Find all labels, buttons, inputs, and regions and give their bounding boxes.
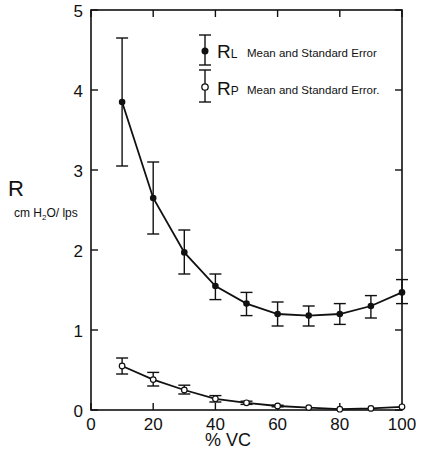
series-l (116, 38, 408, 326)
series-line (122, 366, 402, 409)
open-circle-marker-icon (202, 84, 208, 90)
legend-rp-label: RP (217, 78, 239, 99)
legend-rp: RP Mean and Standard Error. (199, 70, 379, 102)
legend-rl-label: RL (217, 41, 238, 62)
plot-frame (91, 10, 402, 410)
data-point (337, 311, 344, 318)
series-p (116, 358, 405, 412)
y-axis-title: R (8, 176, 24, 201)
data-point (305, 312, 312, 319)
data-point (150, 377, 156, 383)
data-point (212, 283, 219, 290)
data-point (337, 406, 343, 412)
legend-rl: RL Mean and Standard Error (199, 35, 377, 65)
x-tick-label: 0 (86, 415, 95, 434)
legend-rp-text: Mean and Standard Error. (247, 84, 379, 96)
axis-ticks: 012345020406080100 (74, 2, 417, 434)
data-point (368, 303, 375, 310)
y-tick-label: 5 (74, 2, 83, 21)
resistance-chart: 012345020406080100 R cm H2O/ lps % VC RL… (0, 0, 421, 466)
data-point (275, 403, 281, 409)
data-point (399, 289, 406, 296)
data-point (182, 387, 188, 393)
y-axis-units: cm H2O/ lps (14, 206, 78, 222)
data-point (306, 405, 312, 411)
data-point (119, 99, 126, 106)
data-point (399, 404, 405, 410)
x-tick-label: 60 (268, 415, 287, 434)
legend: RL Mean and Standard Error RP Mean and S… (199, 35, 379, 102)
series-line (122, 102, 402, 316)
filled-circle-marker-icon (202, 48, 209, 55)
legend-rl-text: Mean and Standard Error (247, 47, 377, 59)
x-tick-label: 20 (144, 415, 163, 434)
x-tick-label: 80 (330, 415, 349, 434)
data-point (368, 406, 374, 412)
x-tick-label: 100 (388, 415, 416, 434)
data-point (181, 249, 188, 256)
data-point (213, 396, 219, 402)
y-tick-label: 3 (74, 162, 83, 181)
data-point (150, 195, 157, 202)
data-point (119, 363, 125, 369)
data-point (244, 400, 250, 406)
data-point (243, 300, 250, 307)
axes (91, 10, 402, 410)
y-tick-label: 2 (74, 242, 83, 261)
y-tick-label: 1 (74, 322, 83, 341)
data-point (274, 311, 281, 318)
x-axis-title: % VC (205, 430, 251, 450)
y-tick-label: 4 (74, 82, 83, 101)
y-tick-label: 0 (74, 402, 83, 421)
